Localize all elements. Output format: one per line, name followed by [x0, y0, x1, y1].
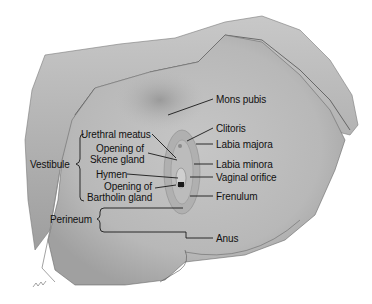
vulva	[164, 130, 200, 214]
label-urethral-meatus: Urethral meatus	[81, 129, 151, 140]
label-frenulum: Frenulum	[216, 191, 257, 202]
label-vaginal-orifice: Vaginal orifice	[216, 172, 277, 183]
label-perineum: Perineum	[50, 214, 92, 225]
label-hymen: Hymen	[96, 169, 127, 180]
label-vestibule: Vestibule	[30, 159, 70, 170]
label-mons-pubis: Mons pubis	[216, 94, 266, 105]
label-skene-gland-line1: Opening of	[96, 143, 144, 154]
label-labia-majora: Labia majora	[216, 139, 273, 150]
label-anus: Anus	[216, 233, 238, 244]
artist-signature	[33, 281, 46, 287]
label-bartholin-gland-line2: Bartholin gland	[87, 192, 152, 203]
label-labia-minora: Labia minora	[216, 159, 273, 170]
anatomy-diagram: Mons pubis Clitoris Labia majora Labia m…	[0, 0, 372, 304]
label-bartholin-gland-line1: Opening of	[104, 181, 152, 192]
label-clitoris: Clitoris	[216, 123, 246, 134]
label-skene-gland-line2: Skene gland	[90, 154, 145, 165]
illustration	[0, 0, 372, 304]
